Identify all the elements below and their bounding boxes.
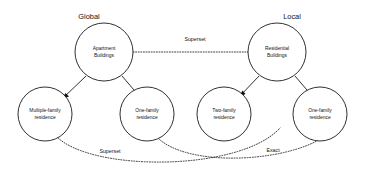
node-label-one-family-residence-global-line1: One-family [135,108,159,113]
group-label-local: Local [283,12,301,21]
node-label-two-family-residence-line2: residence [213,115,234,120]
node-label-one-family-residence-local-line1: One-family [308,108,332,113]
edge-label-exact: Exact [266,147,280,153]
edge-multiple-family-to-two-family-superset [56,128,280,162]
node-label-apartment-buildings-line2: Buildings [94,53,114,58]
diagram-svg: Global Local Superset Superset Exact Apa… [0,0,371,172]
node-label-multiple-family-residence-line1: Multiple-family [29,108,61,113]
group-label-global: Global [78,12,100,21]
node-label-one-family-residence-global-line2: residence [136,115,157,120]
node-circle-apartment-buildings[interactable] [75,23,133,81]
node-label-multiple-family-residence-line2: residence [34,115,55,120]
node-residential-buildings[interactable]: Residential Buildings [248,23,306,81]
node-label-apartment-buildings-line1: Apartment [93,46,116,51]
node-circle-residential-buildings[interactable] [248,23,306,81]
diagram-canvas: Global Local Superset Superset Exact Apa… [0,0,371,172]
node-label-residential-buildings-line2: Buildings [267,53,287,58]
node-multiple-family-residence[interactable]: Multiple-family residence [18,87,72,141]
node-circle-multiple-family-residence[interactable] [18,87,72,141]
node-label-two-family-residence-line1: Two-family [212,108,236,113]
node-circle-one-family-residence-local[interactable] [293,87,347,141]
node-apartment-buildings[interactable]: Apartment Buildings [75,23,133,81]
node-circle-one-family-residence-global[interactable] [120,87,174,141]
node-circle-two-family-residence[interactable] [197,87,251,141]
node-label-one-family-residence-local-line2: residence [309,115,330,120]
edge-label-superset-bottom: Superset [99,148,121,154]
node-one-family-residence-global[interactable]: One-family residence [120,87,174,141]
node-one-family-residence-local[interactable]: One-family residence [293,87,347,141]
node-label-residential-buildings-line1: Residential [265,46,289,51]
node-two-family-residence[interactable]: Two-family residence [197,87,251,141]
edge-label-superset-top: Superset [184,36,206,42]
